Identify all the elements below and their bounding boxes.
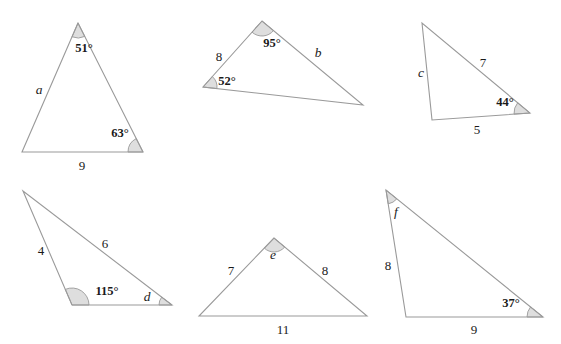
triangle-3-angle-44-label: 44° [496, 96, 514, 109]
triangle-1-arc-at-apex [72, 23, 85, 38]
triangle-4-angle-d-label: d [144, 290, 151, 304]
triangle-4-side-6-label: 6 [102, 237, 109, 250]
triangle-3-side-5-label: 5 [474, 123, 481, 136]
triangle-3-arc-at-right [514, 103, 530, 114]
triangle-6-angle-37-label: 37° [502, 297, 520, 310]
triangle-2 [203, 21, 363, 105]
triangle-5-side-8-label: 8 [322, 264, 329, 277]
triangle-2-outline [203, 21, 363, 105]
triangle-2-side-b-label: b [315, 46, 322, 60]
triangle-6-side-9-label: 9 [471, 323, 478, 336]
triangle-3-outline [422, 23, 530, 120]
triangle-1-side-9-label: 9 [79, 159, 86, 172]
triangle-1-angle-63-label: 63° [111, 127, 129, 140]
triangle-2-angle-52-label: 52° [218, 75, 236, 88]
triangle-3 [422, 23, 530, 120]
triangle-6-angle-f-label: f [394, 205, 398, 219]
triangle-2-angle-95-label: 95° [263, 37, 281, 50]
triangle-1-side-a-label: a [36, 83, 43, 97]
triangle-5-side-11-label: 11 [277, 323, 290, 336]
triangle-3-side-c-label: c [418, 66, 424, 80]
triangle-5-side-7-label: 7 [228, 264, 235, 277]
triangle-5-outline [199, 238, 367, 316]
triangle-1-arc-at-bottom-right [128, 139, 143, 152]
triangle-2-side-8-label: 8 [216, 50, 223, 63]
triangle-5-angle-e-label: e [270, 248, 276, 262]
triangle-1-angle-51-label: 51° [75, 42, 93, 55]
triangle-3-side-7-label: 7 [480, 56, 487, 69]
triangles-figure: 51°a63°995°852°bc744°546115°de7811f837°9 [0, 0, 561, 344]
triangle-4-side-4-label: 4 [38, 244, 45, 257]
triangle-5 [199, 238, 367, 316]
triangle-6-side-8-label: 8 [385, 259, 392, 272]
triangle-4-angle-115-label: 115° [95, 285, 118, 298]
